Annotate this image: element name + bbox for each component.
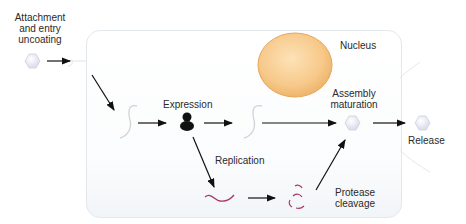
arrow-to-replication [193,137,214,187]
genome-strand-icon [120,106,137,138]
label-expression: Expression [163,99,212,110]
nucleus-shape [258,33,332,97]
released-virion-icon [415,116,430,130]
label-protease: Protease cleavage [330,187,380,209]
mrna-strand-icon [244,106,262,138]
assembled-virion-icon [345,116,360,130]
arrow-cleavage-to-assembly [316,140,345,190]
virion-hexagon-icon [25,54,40,68]
label-release: Release [408,135,445,146]
replicated-strand-icon [205,195,234,201]
ribosome-icon [180,113,194,132]
label-attachment: Attachment and entry uncoating [10,12,70,45]
label-nucleus: Nucleus [340,40,376,51]
arrow-uncoat [92,75,114,110]
label-replication: Replication [215,155,264,166]
protein-fragments-icon [289,185,304,208]
label-assembly: Assembly maturation [326,88,382,110]
